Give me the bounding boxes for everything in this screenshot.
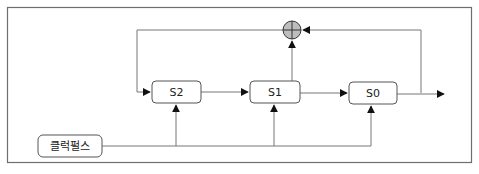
register-s2-label: S2 (170, 86, 184, 99)
register-s1: S1 (250, 81, 300, 103)
clock-pulse: 클럭펄스 (38, 135, 102, 157)
register-s0: S0 (349, 82, 397, 104)
clock-label: 클럭펄스 (50, 140, 90, 153)
clock-lines (102, 105, 371, 146)
register-s0-label: S0 (366, 87, 380, 100)
register-s2: S2 (152, 81, 201, 103)
register-s1-label: S1 (268, 86, 282, 99)
xor-gate (283, 21, 301, 39)
lfsr-diagram: S2 S1 S0 클럭펄스 (0, 0, 479, 174)
shift-path (201, 92, 444, 94)
